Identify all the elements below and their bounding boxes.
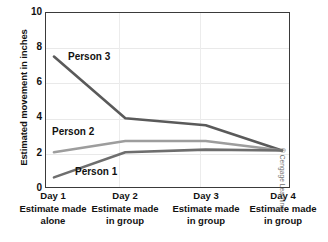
x-label-day-3-day: Day 3 bbox=[163, 190, 249, 202]
series-label-person-3: Person 3 bbox=[68, 51, 110, 62]
x-label-day-3: Day 3 Estimate made in group bbox=[163, 190, 249, 226]
x-label-day-2: Day 2 Estimate made in group bbox=[82, 190, 168, 226]
x-label-day-2-day: Day 2 bbox=[82, 190, 168, 202]
x-label-day-3-line2: in group bbox=[163, 215, 249, 227]
x-axis-labels: Day 1 Estimate made alone Day 2 Estimate… bbox=[45, 190, 290, 240]
y-tick-8: 8 bbox=[26, 42, 42, 52]
copyright-credit: © Cengage Learning bbox=[279, 148, 286, 238]
y-tick-4: 4 bbox=[26, 112, 42, 122]
plot-inner: Person 3 Person 2 Person 1 bbox=[46, 13, 289, 187]
y-tick-6: 6 bbox=[26, 77, 42, 87]
series-label-person-2: Person 2 bbox=[52, 126, 94, 137]
y-tick-10: 10 bbox=[26, 7, 42, 17]
series-layer bbox=[46, 13, 289, 187]
x-label-day-2-line2: in group bbox=[82, 215, 168, 227]
y-tick-2: 2 bbox=[26, 148, 42, 158]
x-label-day-3-line1: Estimate made bbox=[163, 203, 249, 215]
series-label-person-1: Person 1 bbox=[75, 166, 117, 177]
plot-area: Person 3 Person 2 Person 1 bbox=[45, 12, 290, 188]
x-label-day-2-line1: Estimate made bbox=[82, 203, 168, 215]
line-chart-figure: Estimated movement in inches 10 8 6 4 2 … bbox=[0, 0, 328, 242]
